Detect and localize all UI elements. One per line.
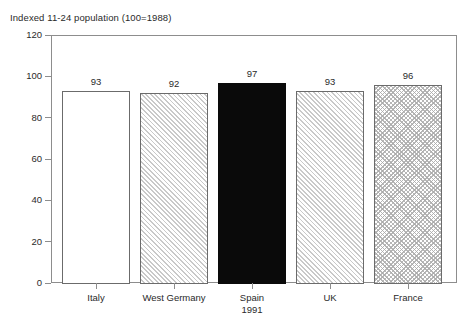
- y-tick-80: 80: [0, 112, 51, 124]
- bar-value-spain: 97: [247, 68, 258, 80]
- y-tick-mark: [45, 76, 51, 77]
- y-axis: 120 100 80 60 40 20 0: [0, 0, 51, 326]
- bar-value-west-germany: 92: [169, 78, 180, 90]
- x-tick-mark-spain: [252, 283, 253, 289]
- y-tick-60: 60: [0, 153, 51, 165]
- bar-value-italy: 93: [91, 76, 102, 88]
- bar-value-uk: 93: [325, 76, 336, 88]
- y-tick-mark: [45, 241, 51, 242]
- x-tick-sublabel-spain: 1991: [241, 304, 262, 316]
- y-tick-mark: [45, 117, 51, 118]
- y-tick-mark: [45, 200, 51, 201]
- x-tick-mark-west-germany: [174, 283, 175, 289]
- y-tick-0: 0: [0, 277, 51, 289]
- x-tick-label-west-germany: West Germany: [142, 292, 205, 304]
- bar-spain[interactable]: [218, 83, 286, 284]
- bar-chart: Indexed 11-24 population (100=1988) 120 …: [0, 0, 476, 326]
- x-tick-label-uk: UK: [323, 292, 336, 304]
- y-tick-label: 80: [31, 112, 42, 124]
- y-tick-100: 100: [0, 70, 51, 82]
- bar-uk[interactable]: [296, 91, 364, 284]
- y-tick-mark: [45, 35, 51, 36]
- x-tick-label-spain: Spain: [240, 292, 264, 304]
- bar-france[interactable]: [374, 85, 442, 284]
- x-tick-mark-uk: [330, 283, 331, 289]
- bar-west-germany[interactable]: [140, 93, 208, 284]
- x-tick-mark-italy: [96, 283, 97, 289]
- x-tick-mark-france: [408, 283, 409, 289]
- y-tick-120: 120: [0, 29, 51, 41]
- y-tick-mark: [45, 159, 51, 160]
- y-tick-label: 60: [31, 153, 42, 165]
- y-tick-40: 40: [0, 194, 51, 206]
- y-tick-20: 20: [0, 236, 51, 248]
- y-tick-label: 20: [31, 236, 42, 248]
- x-tick-label-france: France: [393, 292, 423, 304]
- y-tick-label: 120: [26, 29, 42, 41]
- y-tick-label: 40: [31, 194, 42, 206]
- y-tick-label: 0: [37, 277, 42, 289]
- y-tick-mark: [45, 283, 51, 284]
- y-tick-label: 100: [26, 70, 42, 82]
- bar-italy[interactable]: [62, 91, 130, 284]
- bar-value-france: 96: [403, 70, 414, 82]
- x-tick-label-italy: Italy: [87, 292, 104, 304]
